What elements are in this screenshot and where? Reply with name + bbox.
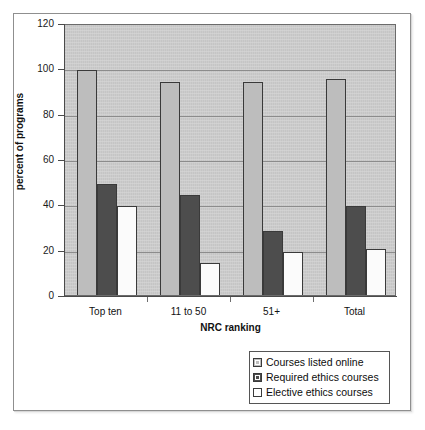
bar bbox=[97, 184, 117, 296]
y-axis-tick-label: 20 bbox=[43, 246, 54, 256]
bar bbox=[200, 263, 220, 296]
dark-gray-swatch bbox=[253, 373, 262, 382]
white-swatch bbox=[253, 388, 262, 397]
gridline bbox=[65, 70, 395, 71]
y-axis-tick-label: 0 bbox=[48, 291, 54, 301]
x-axis-category-label: Top ten bbox=[64, 306, 147, 317]
y-axis-line bbox=[64, 24, 65, 297]
legend-item-label: Elective ethics courses bbox=[266, 387, 373, 398]
chart-legend: Courses listed onlineRequired ethics cou… bbox=[249, 351, 390, 404]
y-axis-tick bbox=[58, 115, 64, 116]
bar bbox=[117, 206, 137, 296]
y-axis-tick-label: 120 bbox=[37, 19, 54, 29]
y-axis-tick-label: 80 bbox=[43, 110, 54, 120]
legend-item: Elective ethics courses bbox=[253, 385, 385, 400]
bar bbox=[326, 79, 346, 296]
bar bbox=[243, 82, 263, 296]
x-axis-category-label: 51+ bbox=[230, 306, 313, 317]
plot-area bbox=[64, 24, 396, 296]
legend-item: Required ethics courses bbox=[253, 370, 385, 385]
bar bbox=[346, 206, 366, 296]
x-axis-tick bbox=[147, 297, 148, 302]
bar bbox=[180, 195, 200, 296]
bar bbox=[160, 82, 180, 296]
x-axis-tick bbox=[313, 297, 314, 302]
x-axis-category-label: 11 to 50 bbox=[147, 306, 230, 317]
y-axis-tick bbox=[58, 205, 64, 206]
y-axis-tick-label: 100 bbox=[37, 64, 54, 74]
y-axis-tick bbox=[58, 296, 64, 297]
bar bbox=[77, 70, 97, 296]
legend-item-label: Courses listed online bbox=[266, 357, 363, 368]
y-axis-tick bbox=[58, 251, 64, 252]
bar bbox=[263, 231, 283, 296]
y-axis-tick-label: 40 bbox=[43, 200, 54, 210]
x-axis-tick bbox=[230, 297, 231, 302]
bar bbox=[283, 252, 303, 296]
y-axis-tick bbox=[58, 24, 64, 25]
legend-item-label: Required ethics courses bbox=[266, 372, 379, 383]
bar-chart: 020406080100120 Top ten11 to 5051+Total … bbox=[0, 0, 425, 430]
legend-item: Courses listed online bbox=[253, 355, 385, 370]
y-axis-tick bbox=[58, 160, 64, 161]
y-axis-title: percent of programs bbox=[14, 82, 25, 202]
y-axis-tick bbox=[58, 69, 64, 70]
y-axis-tick-label: 60 bbox=[43, 155, 54, 165]
bar bbox=[366, 249, 386, 296]
x-axis-title: NRC ranking bbox=[64, 322, 397, 333]
light-gray-swatch bbox=[253, 358, 262, 367]
x-axis-category-label: Total bbox=[313, 306, 396, 317]
